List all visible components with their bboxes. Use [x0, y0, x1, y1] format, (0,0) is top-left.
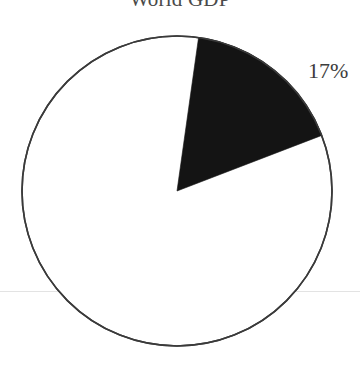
- pie-chart: [0, 0, 360, 366]
- slice-percentage-label: 17%: [308, 60, 348, 82]
- chart-page: World GDP 17%: [0, 0, 360, 366]
